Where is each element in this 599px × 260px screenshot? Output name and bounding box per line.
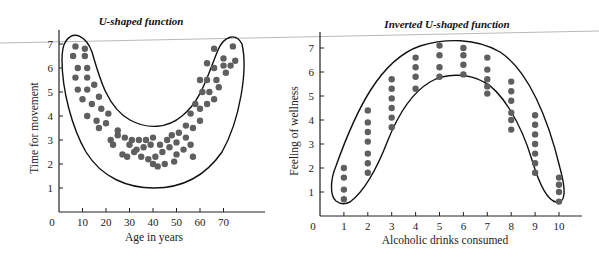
data-point — [532, 170, 538, 176]
data-point — [508, 126, 514, 132]
data-point — [412, 54, 418, 60]
x-tick-label: 9 — [532, 220, 538, 232]
data-point — [341, 165, 347, 171]
data-point — [532, 160, 538, 166]
x-tick-label: 10 — [554, 220, 566, 232]
scan-line — [0, 31, 599, 43]
y-axis-label: Feeling of wellness — [288, 86, 301, 176]
data-point — [183, 134, 189, 140]
data-point — [508, 117, 514, 123]
data-point — [365, 129, 371, 135]
data-point — [365, 119, 371, 125]
data-point — [220, 62, 226, 68]
data-point — [341, 186, 347, 192]
data-point — [169, 132, 175, 138]
y-axis-label: Time for movement — [28, 81, 40, 173]
data-point — [532, 131, 538, 137]
data-point — [176, 130, 182, 136]
inverted-u-chart: Inverted U-shaped function Feeling of we… — [288, 18, 582, 246]
data-point — [532, 122, 538, 128]
x-tick-label: 30 — [124, 216, 136, 228]
x-tick-label: 4 — [413, 220, 419, 232]
data-point — [197, 77, 203, 83]
x-tick-label: 0 — [49, 216, 55, 228]
data-point — [556, 174, 562, 180]
data-point — [484, 66, 490, 72]
data-point — [82, 46, 88, 52]
data-point — [84, 65, 90, 71]
data-point — [150, 134, 156, 140]
data-point — [171, 158, 177, 164]
x-tick-label: 50 — [171, 216, 183, 228]
x-tick-label: 40 — [148, 216, 160, 228]
data-point — [122, 134, 128, 140]
data-point — [79, 96, 85, 102]
data-point — [187, 110, 193, 116]
data-point — [460, 71, 466, 77]
data-point — [84, 113, 90, 119]
data-point — [105, 110, 111, 116]
y-tick-label: 5 — [309, 90, 315, 102]
y-tick-label: 3 — [48, 134, 54, 146]
data-point — [131, 149, 137, 155]
data-point — [389, 95, 395, 101]
data-point — [436, 64, 442, 70]
y-tick-label: 2 — [48, 158, 54, 170]
x-axis-label: Age in years — [125, 231, 184, 244]
data-point — [183, 122, 189, 128]
data-point — [162, 161, 168, 167]
data-point — [166, 144, 172, 150]
data-point — [145, 156, 151, 162]
data-point — [412, 64, 418, 70]
data-point — [216, 84, 222, 90]
y-tick-label: 1 — [48, 182, 54, 194]
y-tick-label: 5 — [48, 86, 54, 98]
data-point — [75, 65, 81, 71]
x-tick-label: 8 — [508, 220, 514, 232]
x-tick-label: 20 — [101, 216, 113, 228]
x-tick-label: 7 — [485, 220, 491, 232]
data-point — [190, 154, 196, 160]
data-points — [341, 42, 563, 204]
data-point — [204, 60, 210, 66]
data-point — [227, 62, 233, 68]
data-point — [197, 106, 203, 112]
data-point — [365, 150, 371, 156]
data-point — [155, 163, 161, 169]
data-point — [204, 77, 210, 83]
data-point — [341, 196, 347, 202]
data-point — [389, 114, 395, 120]
data-point — [412, 86, 418, 92]
data-point — [484, 90, 490, 96]
data-point — [211, 65, 217, 71]
data-point — [508, 88, 514, 94]
data-point — [556, 182, 562, 188]
x-tick-label: 0 — [310, 220, 316, 232]
data-point — [532, 141, 538, 147]
data-point — [89, 101, 95, 107]
x-tick-label: 10 — [77, 216, 89, 228]
data-point — [232, 58, 238, 64]
x-tick-label: 1 — [341, 220, 347, 232]
x-tick-label: 2 — [365, 220, 371, 232]
data-point — [460, 62, 466, 68]
data-point — [82, 53, 88, 59]
data-point — [84, 74, 90, 80]
data-point — [389, 76, 395, 82]
data-point — [180, 146, 186, 152]
data-point — [173, 139, 179, 145]
data-point — [72, 43, 78, 49]
data-point — [98, 106, 104, 112]
y-tick-label: 6 — [48, 62, 54, 74]
data-point — [199, 89, 205, 95]
data-point — [159, 149, 165, 155]
data-point — [365, 170, 371, 176]
data-point — [138, 154, 144, 160]
data-point — [220, 55, 226, 61]
data-point — [136, 137, 142, 143]
data-point — [436, 74, 442, 80]
data-point — [460, 52, 466, 58]
data-point — [211, 96, 217, 102]
data-point — [389, 86, 395, 92]
data-point — [147, 142, 153, 148]
